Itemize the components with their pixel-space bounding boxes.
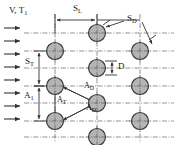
tube-array bbox=[47, 25, 149, 146]
a-transverse-label: AT bbox=[57, 96, 66, 104]
tube-bank-diagram: V, T1 SL SD ST D A1 AT AD AD bbox=[0, 0, 174, 145]
diameter-label: D bbox=[118, 62, 125, 71]
s-d-leader-left bbox=[106, 21, 124, 27]
dimension-s-diagonal bbox=[103, 20, 156, 44]
s-d-tick-upper bbox=[103, 20, 110, 25]
s-diagonal-label: SD bbox=[127, 14, 137, 23]
s-longitudinal-label: SL bbox=[73, 4, 82, 13]
s-d-tick-lower bbox=[149, 35, 156, 40]
a-diagonal-lower-label: AD bbox=[86, 104, 96, 112]
flow-arrows bbox=[4, 28, 20, 119]
a-inlet-label: A1 bbox=[24, 91, 34, 100]
a-diagonal-upper-label: AD bbox=[84, 82, 94, 90]
inlet-condition-label: V, T1 bbox=[9, 6, 27, 15]
dimension-a-inlet bbox=[34, 86, 44, 121]
dimension-s-transverse bbox=[34, 51, 44, 86]
diagram-canvas bbox=[0, 0, 174, 145]
s-transverse-label: ST bbox=[25, 57, 34, 66]
